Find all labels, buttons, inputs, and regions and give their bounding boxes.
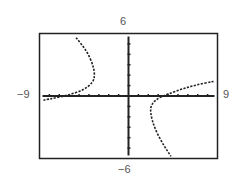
hyperbola-branch-2 [151, 81, 214, 156]
hyperbola-branch-1 [43, 38, 94, 100]
graph-window [0, 0, 237, 179]
axes [43, 37, 215, 156]
